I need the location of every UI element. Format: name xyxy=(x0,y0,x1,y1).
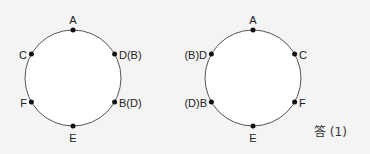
point-a xyxy=(251,28,256,33)
point-d-b xyxy=(112,52,117,57)
label-a: A xyxy=(69,14,77,26)
label-c: C xyxy=(299,49,307,61)
point-f xyxy=(29,100,34,105)
label-b-d: (B)D xyxy=(184,49,207,61)
point-b-d xyxy=(209,52,214,57)
point-c xyxy=(29,52,34,57)
right-circle-diagram: A C F E (D)B (B)D xyxy=(184,14,307,144)
label-e: E xyxy=(69,132,76,144)
label-f: F xyxy=(20,97,27,109)
label-c: C xyxy=(19,49,27,61)
point-e xyxy=(251,124,256,129)
label-b-d: B(D) xyxy=(119,97,142,109)
answer-label: 答 (1) xyxy=(314,124,347,139)
label-d-b: D(B) xyxy=(119,49,142,61)
left-circle-diagram: A D(B) B(D) E F C xyxy=(19,14,142,144)
label-a: A xyxy=(249,14,257,26)
left-circle xyxy=(25,30,121,126)
point-c xyxy=(292,52,297,57)
point-d-b xyxy=(209,100,214,105)
point-e xyxy=(71,124,76,129)
label-f: F xyxy=(299,97,306,109)
point-f xyxy=(292,100,297,105)
right-circle xyxy=(205,30,301,126)
point-a xyxy=(71,28,76,33)
point-b-d xyxy=(112,100,117,105)
label-e: E xyxy=(249,132,256,144)
seating-diagrams: A D(B) B(D) E F C A C F E (D)B (B)D 答 (1… xyxy=(0,0,370,154)
label-d-b: (D)B xyxy=(184,97,207,109)
